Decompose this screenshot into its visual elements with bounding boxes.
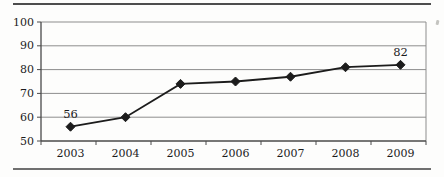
x-tick-label-2008: 2008 — [332, 147, 360, 160]
data-point-marker-2006 — [231, 77, 240, 86]
y-tick-label-60: 60 — [20, 111, 34, 124]
data-point-label-2009: 82 — [393, 45, 408, 59]
data-point-marker-2004 — [121, 113, 130, 122]
data-point-marker-2009 — [396, 60, 405, 69]
line-chart-canvas: 5060708090100200320042005200620072008200… — [0, 0, 444, 177]
x-tick-label-2006: 2006 — [222, 147, 250, 160]
data-point-marker-2008 — [341, 63, 350, 72]
y-tick-label-80: 80 — [20, 63, 34, 76]
y-tick-label-50: 50 — [20, 135, 34, 148]
x-tick-label-2009: 2009 — [387, 147, 415, 160]
chart-figure: 5060708090100200320042005200620072008200… — [0, 0, 444, 177]
x-tick-label-2003: 2003 — [57, 147, 85, 160]
data-point-label-2003: 56 — [63, 107, 78, 121]
bottom-rule-divider — [13, 168, 431, 170]
x-tick-label-2004: 2004 — [112, 147, 140, 160]
data-point-marker-2003 — [66, 122, 75, 131]
y-tick-label-90: 90 — [20, 39, 34, 52]
data-point-marker-2005 — [176, 79, 185, 88]
x-tick-label-2007: 2007 — [277, 147, 305, 160]
y-tick-label-100: 100 — [13, 16, 34, 29]
x-tick-label-2005: 2005 — [167, 147, 195, 160]
y-tick-label-70: 70 — [20, 87, 34, 100]
data-point-marker-2007 — [286, 72, 295, 81]
